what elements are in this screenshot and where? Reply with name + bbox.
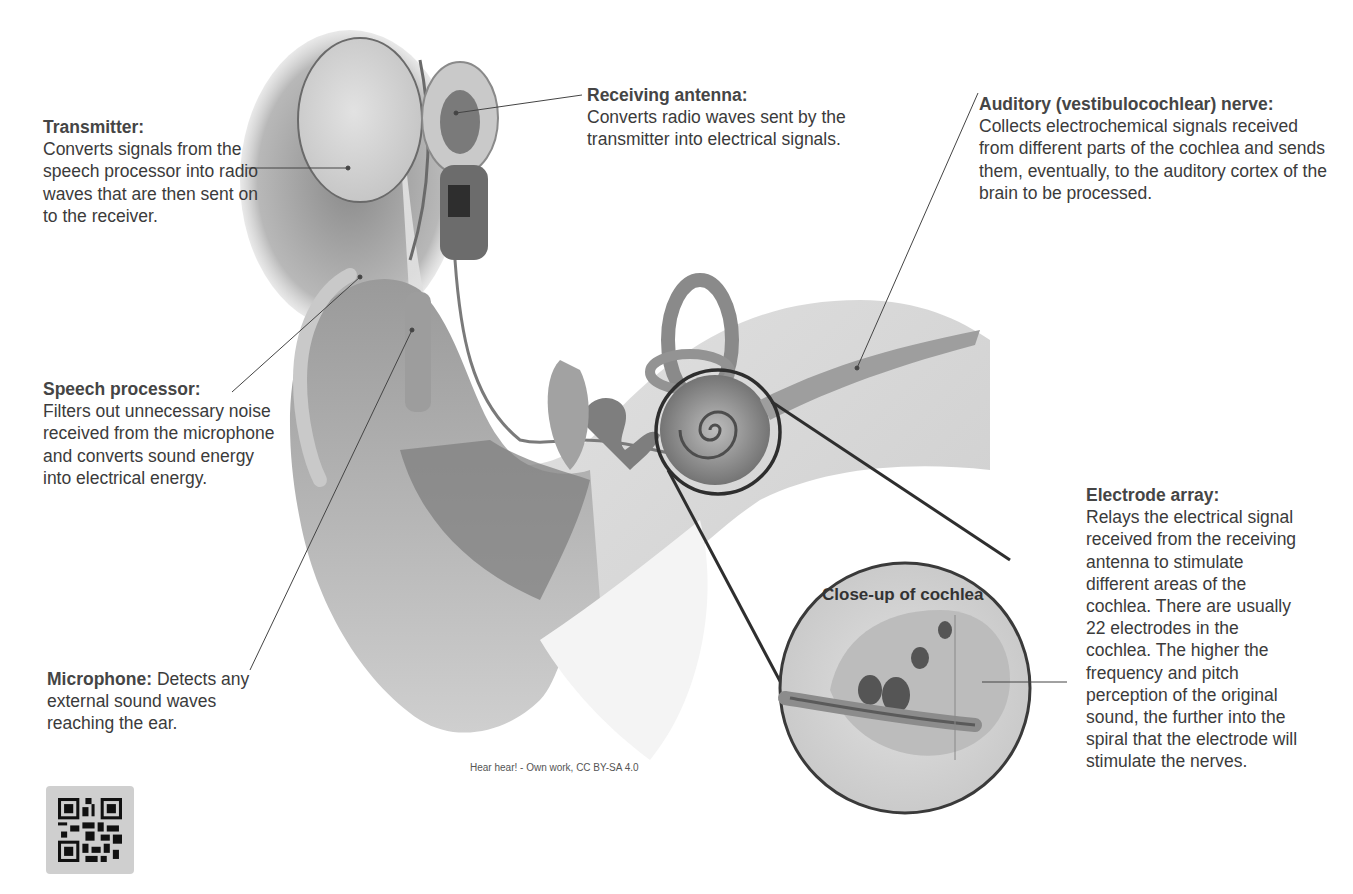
- leader-receiver-dot: [454, 111, 458, 115]
- closeup-chamber-1: [858, 675, 882, 705]
- label-transmitter-body: Converts signals from the speech process…: [43, 138, 263, 227]
- label-speech-processor-body: Filters out unnecessary noise received f…: [43, 400, 283, 489]
- receiver-chip: [448, 185, 470, 217]
- image-credit: Hear hear! - Own work, CC BY-SA 4.0: [470, 762, 639, 773]
- label-receiving-antenna: Receiving antenna: Converts radio waves …: [587, 84, 847, 151]
- closeup-chamber-3: [911, 647, 929, 669]
- leader-speech-processor-dot: [358, 275, 362, 279]
- closeup-chamber-4: [938, 621, 952, 639]
- label-auditory-nerve: Auditory (vestibulocochlear) nerve: Coll…: [979, 93, 1329, 204]
- cochlea: [660, 375, 770, 485]
- transmitter-disc: [298, 38, 422, 202]
- label-auditory-nerve-title: Auditory (vestibulocochlear) nerve:: [979, 93, 1329, 115]
- leader-microphone-dot: [410, 328, 414, 332]
- label-transmitter-title: Transmitter:: [43, 116, 263, 138]
- closeup-title: Close-up of cochlea: [822, 585, 984, 605]
- label-transmitter: Transmitter: Converts signals from the s…: [43, 116, 263, 227]
- qr-code-icon[interactable]: [46, 786, 134, 874]
- label-auditory-nerve-body: Collects electrochemical signals receive…: [979, 115, 1329, 204]
- leader-nerve-dot: [855, 366, 859, 370]
- label-microphone: Microphone: Detects any external sound w…: [47, 668, 287, 735]
- leader-transmitter-dot: [346, 166, 350, 170]
- qr-code-graphic: [58, 798, 122, 862]
- label-microphone-title: Microphone:: [47, 669, 152, 689]
- label-electrode-array: Electrode array: Relays the electrical s…: [1086, 484, 1308, 773]
- receiver-magnet: [440, 90, 480, 154]
- label-electrode-array-title: Electrode array:: [1086, 484, 1308, 506]
- label-electrode-array-body: Relays the electrical signal received fr…: [1086, 506, 1308, 772]
- label-speech-processor-title: Speech processor:: [43, 378, 283, 400]
- label-speech-processor: Speech processor: Filters out unnecessar…: [43, 378, 283, 489]
- label-receiving-antenna-body: Converts radio waves sent by the transmi…: [587, 106, 847, 150]
- speech-processor-body: [405, 292, 431, 412]
- label-receiving-antenna-title: Receiving antenna:: [587, 84, 847, 106]
